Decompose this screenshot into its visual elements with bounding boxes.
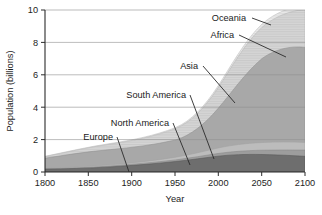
y-axis-title: Population (billions) [5,50,15,131]
series-label-oceania: Oceania [212,13,247,23]
y-tick-label-4: 4 [33,103,38,113]
x-axis-title: Year [166,194,185,204]
series-label-asia: Asia [180,61,199,71]
x-tick-label-1900: 1900 [121,178,141,188]
area-bands-group [45,6,305,173]
series-label-europe: Europe [83,132,113,142]
x-tick-label-1800: 1800 [35,178,55,188]
series-label-north-america: North America [111,118,170,128]
x-tick-labels-group: 1800 1850 1900 1950 2000 2050 2100 [35,178,315,188]
y-tick-label-10: 10 [28,5,38,15]
y-tick-label-2: 2 [33,135,38,145]
series-label-south-america: South America [126,90,187,100]
x-tick-label-1850: 1850 [78,178,98,188]
x-tick-label-2100: 2100 [295,178,315,188]
y-tick-labels-group: 10 8 6 4 2 0 [28,5,38,177]
series-label-africa: Africa [211,30,235,40]
population-stacked-area-figure: population by region [0,0,322,215]
y-tick-label-0: 0 [33,167,38,177]
y-tick-label-8: 8 [33,38,38,48]
y-tick-label-6: 6 [33,70,38,80]
x-tick-label-2000: 2000 [208,178,228,188]
x-tick-label-1950: 1950 [165,178,185,188]
x-tick-label-2050: 2050 [251,178,271,188]
stacked-area-chart: 10 8 6 4 2 0 1800 1850 1900 1950 2000 20… [0,0,322,215]
